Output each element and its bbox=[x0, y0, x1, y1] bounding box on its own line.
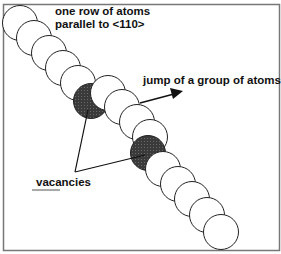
row-label-line2: parallel to <110> bbox=[55, 18, 145, 30]
vacancies-label: vacancies bbox=[36, 176, 91, 188]
jump-label: jump of a group of atoms bbox=[142, 74, 281, 86]
vacancy-diagram: one row of atoms parallel to <110> jump … bbox=[0, 0, 281, 254]
row-label-line1: one row of atoms bbox=[55, 5, 150, 17]
atom bbox=[204, 215, 239, 250]
